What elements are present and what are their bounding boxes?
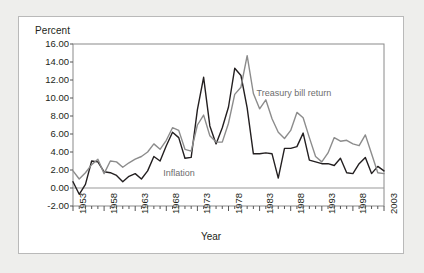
x-axis-title: Year — [19, 231, 403, 242]
chart-root: Percent 16.0014.0012.0010.008.006.004.00… — [19, 17, 403, 253]
chart-panel: Percent 16.0014.0012.0010.008.006.004.00… — [18, 16, 404, 254]
series-label-treasury-bill-return: Treasury bill return — [256, 88, 331, 98]
chart-plot-area — [19, 17, 403, 253]
series-label-inflation: Inflation — [163, 168, 195, 178]
